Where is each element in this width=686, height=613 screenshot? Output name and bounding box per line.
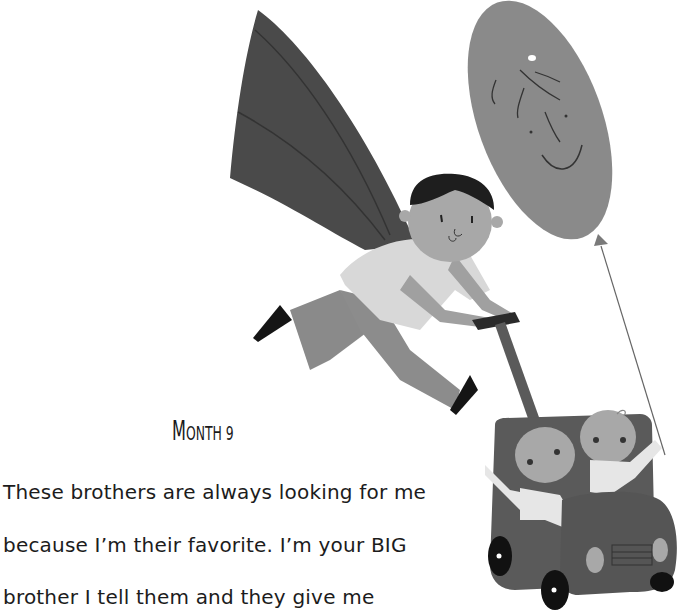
story-line-2: because I’m their favorite. I’m your BIG: [3, 533, 407, 557]
title-initial: M: [172, 416, 186, 446]
story-line-1: These brothers are always looking for me: [3, 480, 426, 504]
stroller-handle: [472, 312, 540, 424]
storybook-illustration: [0, 0, 686, 613]
story-line-3: brother I tell them and they give me: [3, 585, 374, 609]
title-rest: ONTH 9: [186, 421, 234, 445]
page-title: MONTH 9: [172, 416, 234, 446]
wing: [230, 10, 415, 250]
toy-car: [485, 410, 677, 610]
